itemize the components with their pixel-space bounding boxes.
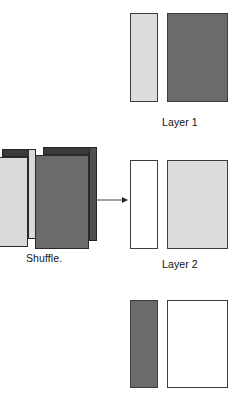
- shuffle-label: Shuffle.: [26, 252, 62, 265]
- shuffle-arrow: [95, 195, 128, 205]
- arrow-head-icon: [122, 197, 128, 203]
- dark-block-front-face: [35, 155, 89, 249]
- arrow-shaft: [95, 200, 123, 201]
- diagram-canvas: Layer 1Layer 2Shuffle.: [0, 0, 242, 398]
- dark-block-side-face: [89, 147, 97, 241]
